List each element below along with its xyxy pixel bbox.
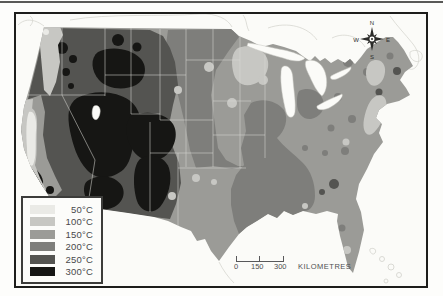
canada-interior-line bbox=[70, 14, 232, 27]
legend-label: 100°C bbox=[55, 217, 93, 227]
mexico-gulf-line bbox=[219, 262, 234, 283]
zone-100-southern-appalachia bbox=[343, 139, 350, 146]
zone-100-plains-spot bbox=[174, 86, 182, 94]
legend-row: 100°C bbox=[23, 216, 101, 229]
zone-200-spot bbox=[343, 57, 353, 67]
legend-swatch-50c bbox=[30, 205, 55, 214]
zone-200-spot bbox=[348, 115, 356, 123]
compass-label-east: E bbox=[386, 37, 390, 43]
compass-label-north: N bbox=[370, 20, 374, 26]
zone-100-texas-spot bbox=[192, 174, 200, 182]
legend-swatch-250c bbox=[30, 255, 55, 264]
canada-coast-line bbox=[30, 16, 33, 26]
scale-label-300: 300 bbox=[274, 263, 287, 271]
legend-swatch-200c bbox=[30, 242, 55, 251]
legend-label: 150°C bbox=[55, 230, 93, 240]
scale-label-0: 0 bbox=[234, 263, 238, 271]
zone-100-gulf-spot bbox=[302, 203, 308, 209]
page-rule bbox=[0, 1, 443, 3]
bahama-island bbox=[370, 248, 376, 254]
zone-50-central-valley-core bbox=[26, 112, 36, 166]
zone-300-spot bbox=[68, 83, 74, 89]
zone-200-spot bbox=[328, 125, 335, 132]
legend-label: 250°C bbox=[55, 255, 93, 265]
zone-300-spot bbox=[133, 43, 142, 52]
scale-unit-label: KILOMETRES bbox=[298, 263, 351, 271]
zone-100-wisconsin bbox=[258, 75, 268, 85]
bahama-island bbox=[397, 273, 402, 278]
zone-100-plains-spot bbox=[204, 62, 214, 72]
zone-250-east-spot bbox=[376, 89, 383, 96]
zone-100-texas-spot bbox=[211, 179, 217, 185]
scale-tick bbox=[236, 256, 237, 261]
zone-300-spot bbox=[112, 34, 124, 46]
legend-row: 150°C bbox=[23, 228, 101, 241]
zone-250-east-spot bbox=[329, 179, 339, 189]
legend-label: 200°C bbox=[55, 242, 93, 252]
ontario-shore-line bbox=[268, 25, 317, 40]
bahama-island bbox=[384, 279, 388, 283]
zone-100-florida-spot bbox=[343, 246, 351, 254]
zone-200-spot bbox=[341, 147, 349, 155]
lake-winnipeg-outline bbox=[243, 15, 249, 31]
zone-300-spot bbox=[62, 68, 70, 76]
compass-label-west: W bbox=[353, 37, 359, 43]
zone-200-spot bbox=[302, 145, 308, 151]
zone-200-spot bbox=[387, 53, 394, 60]
scale-bar: 0 150 300 KILOMETRES bbox=[236, 256, 284, 273]
zone-250-east-spot bbox=[393, 67, 401, 75]
scale-tick bbox=[259, 256, 260, 261]
bahamas-outlines bbox=[370, 248, 402, 283]
zone-300-spot bbox=[69, 55, 77, 63]
map-legend: 50°C 100°C 150°C 200°C 250°C 300°C bbox=[21, 196, 103, 284]
compass-center-dot bbox=[371, 38, 373, 40]
zone-200-spot bbox=[322, 150, 328, 156]
compass-label-south: S bbox=[370, 54, 374, 60]
zone-50-coast-spot bbox=[43, 29, 49, 35]
legend-swatch-100c bbox=[30, 217, 55, 226]
legend-row: 300°C bbox=[23, 266, 101, 279]
legend-swatch-150c bbox=[30, 230, 55, 239]
bahama-island bbox=[380, 257, 385, 262]
georgian-bay-line bbox=[332, 35, 365, 47]
legend-label: 50°C bbox=[55, 205, 93, 215]
legend-swatch-300c bbox=[30, 267, 55, 276]
scale-tick bbox=[283, 256, 284, 261]
legend-row: 250°C bbox=[23, 253, 101, 266]
scale-label-150: 150 bbox=[251, 263, 264, 271]
zone-100-texas-spot bbox=[168, 192, 176, 200]
zone-250-east-spot bbox=[319, 189, 325, 195]
bahama-island bbox=[388, 264, 394, 270]
zone-100-plains-spot bbox=[227, 98, 237, 108]
scale-bar-labels: 0 150 300 KILOMETRES bbox=[236, 263, 284, 273]
legend-row: 50°C bbox=[23, 203, 101, 216]
scanned-map-page: N E S W 50°C 100°C 150°C 200°C 250°C bbox=[0, 0, 443, 296]
legend-label: 300°C bbox=[55, 267, 93, 277]
zone-200-spot bbox=[339, 225, 346, 232]
nova-scotia-outline bbox=[410, 50, 422, 61]
zone-300-spot bbox=[46, 186, 54, 194]
legend-row: 200°C bbox=[23, 241, 101, 254]
